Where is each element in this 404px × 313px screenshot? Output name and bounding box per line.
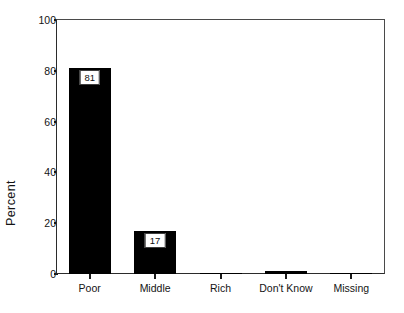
bar-poor[interactable]: 81 [69, 20, 111, 274]
y-tick-label: 80 [12, 66, 56, 76]
bar-value-label: 17 [145, 233, 166, 248]
x-tick-mark [220, 274, 222, 279]
x-tick-mark [154, 274, 156, 279]
bar-value-label: 81 [79, 70, 100, 85]
bar-chart-figure: Percent 100806040200 8117 PoorMiddleRich… [0, 0, 404, 313]
bar-rich[interactable] [200, 20, 242, 274]
y-tick-label: 60 [12, 117, 56, 127]
x-tick-mark [285, 274, 287, 279]
y-axis-ticks: 100806040200 [0, 0, 56, 313]
y-tick-label: 100 [12, 15, 56, 25]
x-tick-label: Missing [306, 282, 396, 295]
x-tick-mark [89, 274, 91, 279]
bars-layer: 8117 [57, 20, 384, 274]
bar-middle[interactable]: 17 [134, 20, 176, 274]
x-tick-mark [350, 274, 352, 279]
y-tick-label: 40 [12, 167, 56, 177]
y-tick-label: 20 [12, 218, 56, 228]
bar-missing[interactable] [330, 20, 372, 274]
x-axis-ticks: PoorMiddleRichDon't KnowMissing [0, 274, 404, 313]
bar-don-t-know[interactable] [265, 20, 307, 274]
bar-rect [69, 68, 111, 274]
